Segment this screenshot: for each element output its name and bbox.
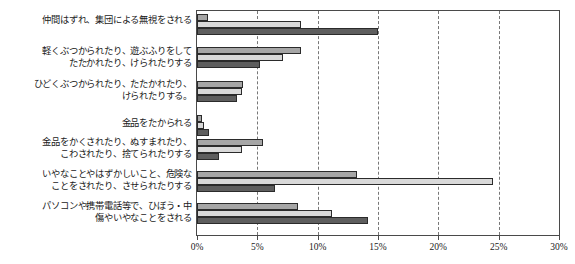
- category-label: 金品をたかられる: [0, 117, 192, 129]
- bar-中学校-4: [197, 146, 242, 153]
- bar-高等学校-2: [197, 95, 237, 102]
- x-tick-label: 15%: [369, 242, 386, 252]
- bar-中学校-6: [197, 210, 332, 217]
- category-label: 軽くぶつかられたり、遊ぶふりをして たたかれたり、けられたりする: [0, 45, 192, 69]
- x-tick-mark: [559, 236, 560, 240]
- x-tick-label: 30%: [550, 242, 567, 252]
- x-tick-label: 0%: [191, 242, 204, 252]
- bar-中学校-3: [197, 122, 204, 129]
- x-tick-mark: [438, 236, 439, 240]
- bar-group: [197, 47, 559, 68]
- bar-高等学校-1: [197, 61, 260, 68]
- bullying-types-bar-chart: 仲間はずれ、集団による無視をされる軽くぶつかられたり、遊ぶふりをして たたかれた…: [0, 0, 575, 264]
- category-label: ひどくぶつかられたり、たたかれたり、 けられたりする。: [0, 78, 192, 102]
- bar-group: [197, 115, 559, 136]
- bar-小学校-0: [197, 14, 208, 21]
- x-tick-label: 25%: [490, 242, 507, 252]
- bar-高等学校-4: [197, 153, 219, 160]
- bar-group: [197, 139, 559, 160]
- bar-小学校-1: [197, 47, 301, 54]
- bar-小学校-3: [197, 115, 202, 122]
- plot-area: (上から順に) 小学校中学校高等学校: [196, 10, 560, 236]
- bar-中学校-0: [197, 21, 301, 28]
- x-tick-mark: [318, 236, 319, 240]
- bar-高等学校-6: [197, 217, 368, 224]
- bar-小学校-4: [197, 139, 263, 146]
- x-tick-label: 10%: [309, 242, 326, 252]
- x-tick-mark: [499, 236, 500, 240]
- category-label: 仲間はずれ、集団による無視をされる: [0, 14, 192, 26]
- x-tick-mark: [197, 236, 198, 240]
- bar-高等学校-5: [197, 185, 275, 192]
- bar-高等学校-3: [197, 129, 209, 136]
- x-tick-label: 20%: [430, 242, 447, 252]
- category-label: パソコンや携帯電話等で、ひぼう・中 傷やいやなことをされる: [0, 200, 192, 224]
- bar-高等学校-0: [197, 28, 378, 35]
- bar-group: [197, 203, 559, 224]
- x-tick-label: 5%: [251, 242, 264, 252]
- category-label-list: 仲間はずれ、集団による無視をされる軽くぶつかられたり、遊ぶふりをして たたかれた…: [0, 0, 196, 236]
- bar-中学校-5: [197, 178, 493, 185]
- bar-group: [197, 81, 559, 102]
- bar-group: [197, 171, 559, 192]
- bar-group: [197, 14, 559, 35]
- bar-中学校-1: [197, 54, 283, 61]
- bar-小学校-5: [197, 171, 357, 178]
- bar-小学校-2: [197, 81, 243, 88]
- category-label: いやなことやはずかしいこと、危険な ことをされたり、させられたりする: [0, 168, 192, 192]
- bars-layer: [197, 11, 559, 235]
- category-label: 金品をかくされたり、ぬすまれたり、 こわされたり、捨てられたりする: [0, 136, 192, 160]
- x-tick-mark: [378, 236, 379, 240]
- x-tick-mark: [257, 236, 258, 240]
- bar-小学校-6: [197, 203, 298, 210]
- x-axis: 0%5%10%15%20%25%30%: [196, 236, 560, 264]
- bar-中学校-2: [197, 88, 242, 95]
